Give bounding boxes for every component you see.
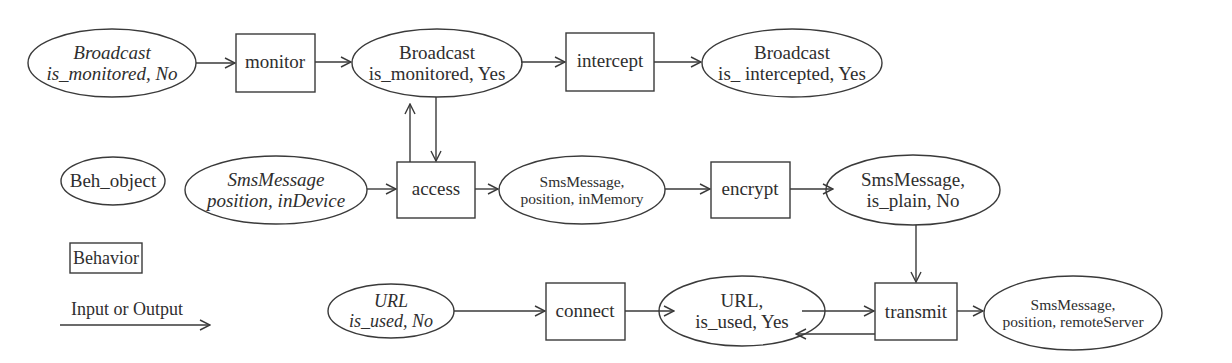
label-line: URL [349, 291, 433, 311]
label-sms-in-device: SmsMessage position, inDevice [207, 169, 345, 212]
legend-arrow-label: Input or Output [71, 299, 183, 319]
label-line: is_ intercepted, Yes [718, 63, 866, 84]
label-line: is_used, Yes [695, 311, 788, 332]
legend-object-label: Beh_object [70, 170, 157, 191]
label-line: position, remoteServer [1002, 313, 1143, 330]
label-broadcast-monitored: Broadcast is_monitored, Yes [369, 42, 506, 85]
label-broadcast-intercepted: Broadcast is_ intercepted, Yes [718, 42, 866, 85]
label-line: SmsMessage, [520, 173, 643, 190]
label-line: SmsMessage, [1002, 296, 1143, 313]
label-line: is_used, No [349, 311, 433, 331]
label-transmit: transmit [885, 301, 947, 322]
label-line: Broadcast [718, 42, 866, 63]
label-url-used: URL, is_used, Yes [695, 290, 788, 333]
label-line: Broadcast [369, 42, 506, 63]
label-access: access [412, 178, 461, 199]
label-line: URL, [695, 290, 788, 311]
label-line: is_monitored, No [46, 63, 177, 84]
label-line: SmsMessage [207, 169, 345, 190]
label-line: position, inMemory [520, 190, 643, 207]
label-monitor: monitor [245, 51, 305, 72]
label-url-not-used: URL is_used, No [349, 291, 433, 331]
label-sms-remote-server: SmsMessage, position, remoteServer [1002, 296, 1143, 331]
label-connect: connect [555, 300, 614, 321]
label-intercept: intercept [577, 50, 643, 71]
label-line: SmsMessage, [861, 169, 965, 190]
label-line: is_monitored, Yes [369, 63, 506, 84]
label-broadcast-not-monitored: Broadcast is_monitored, No [46, 42, 177, 85]
label-line: position, inDevice [207, 190, 345, 211]
label-encrypt: encrypt [722, 178, 779, 199]
label-sms-in-memory: SmsMessage, position, inMemory [520, 173, 643, 208]
legend-behavior-label: Behavior [73, 248, 139, 268]
label-line: Broadcast [46, 42, 177, 63]
label-sms-not-plain: SmsMessage, is_plain, No [861, 169, 965, 212]
label-line: is_plain, No [861, 190, 965, 211]
